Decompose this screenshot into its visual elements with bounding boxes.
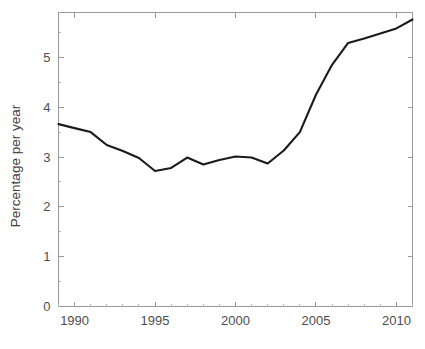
x-tick-label-2010: 2010 <box>382 313 411 328</box>
x-tick-label-2005: 2005 <box>301 313 330 328</box>
y-tick-label-2: 2 <box>43 199 50 214</box>
y-tick-label-3: 3 <box>43 150 50 165</box>
y-tick-label-0: 0 <box>43 299 50 314</box>
chart-background <box>0 0 425 349</box>
line-chart: 19901995200020052010 012345 Percentage p… <box>0 0 425 349</box>
x-tick-label-1990: 1990 <box>60 313 89 328</box>
y-tick-label-5: 5 <box>43 50 50 65</box>
x-tick-label-2000: 2000 <box>221 313 250 328</box>
y-axis-title: Percentage per year <box>8 104 23 227</box>
x-tick-label-1995: 1995 <box>141 313 170 328</box>
y-tick-label-4: 4 <box>43 100 50 115</box>
y-tick-label-1: 1 <box>43 249 50 264</box>
chart-figure: 19901995200020052010 012345 Percentage p… <box>0 0 425 349</box>
